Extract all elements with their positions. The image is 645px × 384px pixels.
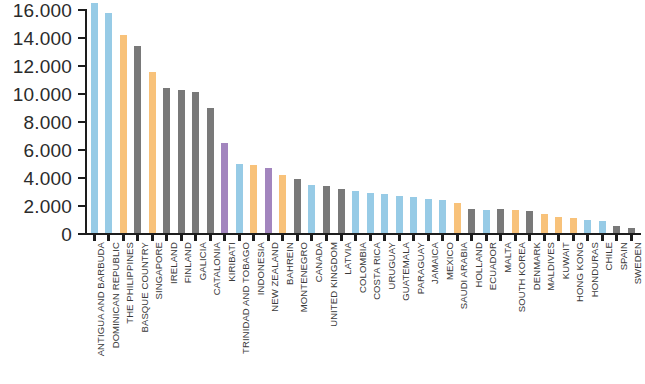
bar-slot[interactable]: [319, 10, 334, 234]
chart-bar[interactable]: [497, 209, 504, 234]
chart-bar[interactable]: [265, 168, 272, 234]
x-axis-label-slot: SWEDEN: [624, 242, 639, 384]
bar-slot[interactable]: [522, 10, 537, 234]
bar-slot[interactable]: [363, 10, 378, 234]
bar-slot[interactable]: [537, 10, 552, 234]
x-axis-tick-slot: [290, 235, 305, 241]
bar-slot[interactable]: [406, 10, 421, 234]
x-axis-tick-slot: [131, 235, 146, 241]
bar-slot[interactable]: [595, 10, 610, 234]
chart-bar[interactable]: [584, 220, 591, 234]
chart-bar[interactable]: [396, 196, 403, 235]
chart-bar[interactable]: [221, 143, 228, 234]
x-axis-tick-slot: [435, 235, 450, 241]
chart-bar[interactable]: [454, 203, 461, 235]
x-axis-tick-slot: [377, 235, 392, 241]
chart-bar[interactable]: [425, 199, 432, 234]
x-axis-tick-slot: [566, 235, 581, 241]
chart-bar[interactable]: [338, 189, 345, 235]
bar-slot[interactable]: [392, 10, 407, 234]
x-axis-label-slot: HONDURAS: [581, 242, 596, 384]
bar-slot[interactable]: [624, 10, 639, 234]
bar-slot[interactable]: [450, 10, 465, 234]
x-axis-tick-slot: [102, 235, 117, 241]
bar-slot[interactable]: [174, 10, 189, 234]
bar-slot[interactable]: [552, 10, 567, 234]
chart-bar[interactable]: [367, 193, 374, 234]
bar-slot[interactable]: [218, 10, 233, 234]
bar-slot[interactable]: [421, 10, 436, 234]
chart-bar[interactable]: [236, 164, 243, 234]
x-axis-label-slot: JAMAICA: [421, 242, 436, 384]
chart-bar[interactable]: [323, 186, 330, 234]
chart-bar[interactable]: [468, 209, 475, 234]
x-axis-label-slot: BASQUE COUNTRY: [131, 242, 146, 384]
y-axis-tick-mark: [78, 121, 87, 123]
chart-bar[interactable]: [308, 185, 315, 234]
chart-bar[interactable]: [178, 90, 185, 234]
bar-slot[interactable]: [116, 10, 131, 234]
chart-bar[interactable]: [439, 200, 446, 234]
bar-slot[interactable]: [131, 10, 146, 234]
x-axis-tick-slot: [189, 235, 204, 241]
x-axis-tick-mark: [412, 235, 415, 241]
x-axis-tick-mark: [557, 235, 560, 241]
chart-bar[interactable]: [105, 13, 112, 234]
chart-bar[interactable]: [294, 179, 301, 234]
bar-slot[interactable]: [334, 10, 349, 234]
x-axis-label-slot: THE PHILIPPINES: [116, 242, 131, 384]
bar-slot[interactable]: [479, 10, 494, 234]
bar-slot[interactable]: [493, 10, 508, 234]
bar-slot[interactable]: [189, 10, 204, 234]
chart-bar[interactable]: [352, 191, 359, 234]
x-axis-tick-slot: [406, 235, 421, 241]
chart-bar[interactable]: [512, 210, 519, 234]
bar-slot[interactable]: [377, 10, 392, 234]
bar-slot[interactable]: [435, 10, 450, 234]
chart-bar[interactable]: [120, 35, 127, 234]
bar-slot[interactable]: [508, 10, 523, 234]
chart-bar[interactable]: [149, 72, 156, 234]
bar-slot[interactable]: [203, 10, 218, 234]
x-axis-tick-mark: [485, 235, 488, 241]
chart-bar[interactable]: [555, 217, 562, 235]
chart-bar[interactable]: [91, 3, 98, 234]
chart-bar[interactable]: [526, 211, 533, 234]
x-axis-tick-mark: [630, 235, 633, 241]
bar-slot[interactable]: [232, 10, 247, 234]
x-axis-label-slot: DOMINICAN REPUBLIC: [102, 242, 117, 384]
x-axis-tick-slot: [247, 235, 262, 241]
chart-bar[interactable]: [483, 210, 490, 234]
chart-bar[interactable]: [570, 218, 577, 234]
chart-bar[interactable]: [207, 108, 214, 234]
x-axis-label-slot: PARAGUAY: [406, 242, 421, 384]
bar-slot[interactable]: [247, 10, 262, 234]
bar-slot[interactable]: [610, 10, 625, 234]
chart-bar[interactable]: [192, 92, 199, 234]
chart-bar[interactable]: [134, 46, 141, 234]
chart-bar[interactable]: [410, 197, 417, 234]
x-axis-tick-slot: [450, 235, 465, 241]
bar-slot[interactable]: [581, 10, 596, 234]
bar-slot[interactable]: [261, 10, 276, 234]
x-axis-label-slot: HOLLAND: [464, 242, 479, 384]
bar-slot[interactable]: [290, 10, 305, 234]
bar-slot[interactable]: [87, 10, 102, 234]
chart-bar[interactable]: [381, 194, 388, 234]
chart-bar[interactable]: [541, 214, 548, 234]
bar-slot[interactable]: [348, 10, 363, 234]
x-axis-label-slot: CATALONIA: [203, 242, 218, 384]
bar-slot[interactable]: [566, 10, 581, 234]
bar-slot[interactable]: [102, 10, 117, 234]
bar-slot[interactable]: [305, 10, 320, 234]
chart-bar[interactable]: [279, 175, 286, 235]
chart-bar[interactable]: [163, 88, 170, 234]
x-axis-label-slot: MEXICO: [435, 242, 450, 384]
bar-slot[interactable]: [160, 10, 175, 234]
bar-slot[interactable]: [464, 10, 479, 234]
x-axis-tick-mark: [514, 235, 517, 241]
bar-slot[interactable]: [145, 10, 160, 234]
chart-bar[interactable]: [250, 165, 257, 234]
bar-slot[interactable]: [276, 10, 291, 234]
x-axis-tick-slot: [116, 235, 131, 241]
